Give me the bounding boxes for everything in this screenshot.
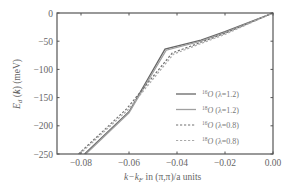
x-axis-label: k−kF in (π,π)/a units [124,172,202,184]
x-tick-label: −0.08 [70,158,92,168]
x-tick-label: −0.04 [166,158,188,168]
y-tick-label: −100 [33,65,53,75]
y-tick-label: −250 [33,150,53,160]
y-axis-label: Ed (k) (meV) [12,59,24,110]
legend-entry: 18O (λ=1.2) [202,105,239,115]
plot-frame [57,13,273,154]
plot-lines [79,13,273,154]
y-tick-label: −150 [33,93,53,103]
legend-entry: 16O (λ=1.2) [202,89,239,99]
chart-figure: −0.08−0.06−0.04−0.020.00 0−50−100−150−20… [0,0,293,188]
x-tick-label: −0.02 [214,158,236,168]
y-tick-label: 0 [48,9,53,19]
y-tick-label: −50 [38,37,53,47]
legend: 16O (λ=1.2)18O (λ=1.2)16O (λ=0.8)18O (λ=… [176,89,239,146]
y-tick-label: −200 [33,121,53,131]
x-tick-label: 0.00 [265,158,282,168]
x-tick-label: −0.06 [118,158,140,168]
legend-entry: 16O (λ=0.8) [202,120,239,130]
x-axis-ticks: −0.08−0.06−0.04−0.020.00 [70,13,282,168]
series-line-1 [85,13,273,154]
legend-entry: 18O (λ=0.8) [202,136,239,146]
series-line-2 [86,13,273,154]
